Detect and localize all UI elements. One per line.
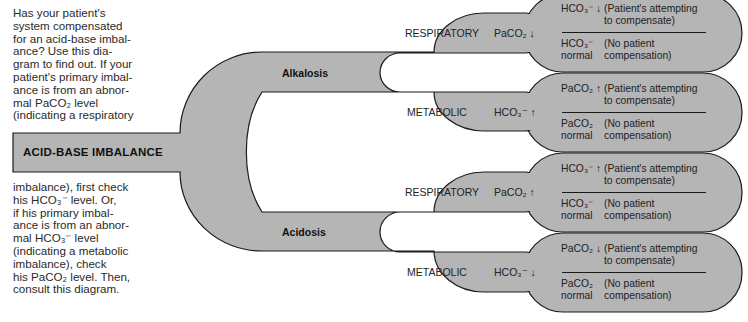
divider xyxy=(562,112,706,113)
value-line: PaCO₂ xyxy=(561,118,593,130)
note-line: to compensate) xyxy=(604,255,698,267)
note-line: compensation) xyxy=(604,210,672,222)
value-line: PaCO₂ xyxy=(561,278,593,290)
outcome-value: HCO₃⁻ normal xyxy=(561,198,593,221)
primary-value-alk-resp: PaCO₂ ↓ xyxy=(494,27,535,39)
outcome-value: PaCO₂ ↓ xyxy=(561,243,601,255)
outcome-note: (Patient's attempting to compensate) xyxy=(604,83,698,106)
note-line: (No patient xyxy=(604,198,672,210)
outcome-note: (No patient compensation) xyxy=(604,118,672,141)
note-line: (Patient's attempting xyxy=(604,163,698,175)
divider xyxy=(562,192,706,193)
note-line: to compensate) xyxy=(604,95,698,107)
outcome-note: (Patient's attempting to compensate) xyxy=(604,3,698,26)
note-line: compensation) xyxy=(604,130,672,142)
outcome-value: HCO₃⁻ ↓ xyxy=(561,3,601,15)
value-line: HCO₃⁻ xyxy=(561,198,593,210)
note-line: (No patient xyxy=(604,278,672,290)
outcome-note: (Patient's attempting to compensate) xyxy=(604,243,698,266)
branch-label-alkalosis: Alkalosis xyxy=(282,67,328,79)
outcome-value: HCO₃⁻ normal xyxy=(561,38,593,61)
divider xyxy=(562,32,706,33)
primary-value-alk-meta: HCO₃⁻ ↑ xyxy=(494,106,536,118)
value-line: HCO₃⁻ xyxy=(561,38,593,50)
outcome-value: PaCO₂ normal xyxy=(561,278,593,301)
outcome-note: (No patient compensation) xyxy=(604,278,672,301)
note-line: to compensate) xyxy=(604,15,698,27)
value-line: normal xyxy=(561,210,593,222)
primary-value-aci-meta: HCO₃⁻ ↓ xyxy=(494,266,536,278)
outcome-note: (Patient's attempting to compensate) xyxy=(604,163,698,186)
value-line: normal xyxy=(561,290,593,302)
type-label-aci-resp: RESPIRATORY xyxy=(405,186,479,198)
branch-label-acidosis: Acidosis xyxy=(282,226,326,238)
note-line: compensation) xyxy=(604,290,672,302)
note-line: (Patient's attempting xyxy=(604,83,698,95)
type-label-alk-resp: RESPIRATORY xyxy=(405,27,479,39)
outcome-note: (No patient compensation) xyxy=(604,198,672,221)
value-line: normal xyxy=(561,130,593,142)
outcome-value: PaCO₂ ↑ xyxy=(561,83,601,95)
primary-value-aci-resp: PaCO₂ ↑ xyxy=(494,186,535,198)
note-line: (Patient's attempting xyxy=(604,3,698,15)
divider xyxy=(562,272,706,273)
type-label-alk-meta: METABOLIC xyxy=(407,106,467,118)
root-label: ACID-BASE IMBALANCE xyxy=(23,146,163,158)
type-label-aci-meta: METABOLIC xyxy=(407,266,467,278)
outcome-value: HCO₃⁻ ↑ xyxy=(561,163,601,175)
note-line: to compensate) xyxy=(604,175,698,187)
outcome-note: (No patient compensation) xyxy=(604,38,672,61)
note-line: (No patient xyxy=(604,38,672,50)
value-line: normal xyxy=(561,50,593,62)
note-line: (No patient xyxy=(604,118,672,130)
note-line: (Patient's attempting xyxy=(604,243,698,255)
outcome-value: PaCO₂ normal xyxy=(561,118,593,141)
note-line: compensation) xyxy=(604,50,672,62)
